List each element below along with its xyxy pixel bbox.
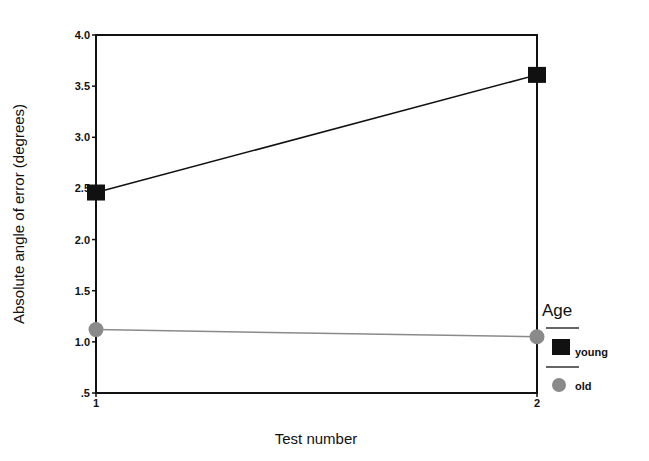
series-line-old xyxy=(96,330,537,337)
legend-label-young: young xyxy=(575,346,608,358)
data-point-old xyxy=(530,329,545,344)
legend-label-old: old xyxy=(575,380,592,392)
x-tick-label: 1 xyxy=(93,397,99,409)
series-line-young xyxy=(96,75,537,193)
series-lines xyxy=(96,75,537,337)
y-axis-title: Absolute angle of error (degrees) xyxy=(10,104,27,324)
series-markers xyxy=(87,67,546,344)
x-axis-title: Test number xyxy=(275,430,358,447)
y-tick-label: 2.0 xyxy=(75,234,90,246)
x-axis-ticks: 12 xyxy=(93,393,540,409)
y-tick-label: 1.0 xyxy=(75,336,90,348)
line-chart: 4.03.53.02.52.01.51.0.5 12 Test number A… xyxy=(0,0,649,461)
data-point-old xyxy=(89,322,104,337)
data-point-young xyxy=(87,185,105,201)
y-tick-label: .5 xyxy=(81,387,90,399)
legend-young-square-icon xyxy=(552,339,570,355)
plot-area xyxy=(96,35,537,393)
y-tick-label: 4.0 xyxy=(75,29,90,41)
x-tick-label: 2 xyxy=(534,397,540,409)
data-point-young xyxy=(528,67,546,83)
y-tick-label: 3.0 xyxy=(75,131,90,143)
legend: Age young old xyxy=(542,301,608,392)
legend-old-circle-icon xyxy=(552,378,566,392)
y-tick-label: 1.5 xyxy=(75,285,90,297)
legend-title: Age xyxy=(542,301,572,320)
y-axis-ticks: 4.03.53.02.52.01.51.0.5 xyxy=(75,29,96,399)
y-tick-label: 3.5 xyxy=(75,80,90,92)
